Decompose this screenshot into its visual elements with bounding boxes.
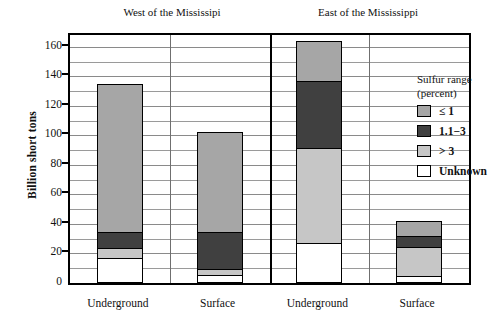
y-tick-label: 120 (22, 98, 62, 110)
bar-0 (97, 84, 143, 283)
y-tick-label: 0 (22, 275, 62, 287)
bar-segment (98, 232, 142, 249)
bar-segment (98, 248, 142, 258)
y-tick-label: 40 (22, 216, 62, 228)
y-tick-label: 140 (22, 68, 62, 80)
y-tick-label: 60 (22, 186, 62, 198)
category-separator (170, 35, 171, 283)
bar-segment (297, 243, 341, 282)
y-tick-label: 20 (22, 245, 62, 257)
y-tick-label: 80 (22, 157, 62, 169)
region-divider (270, 35, 272, 283)
legend-title: Sulfur range (417, 73, 492, 86)
panel-title-east: East of the Mississippi (268, 6, 468, 18)
y-tick-label: 160 (22, 39, 62, 51)
legend-label: Unknown (439, 165, 487, 179)
bar-segment (397, 276, 441, 282)
bar-1 (197, 132, 243, 283)
legend-swatch (417, 105, 431, 117)
bar-2 (296, 41, 342, 283)
x-axis-label: Surface (367, 297, 467, 309)
x-axis-label: Underground (68, 297, 168, 309)
legend-item: Unknown (417, 164, 492, 179)
bar-segment (297, 148, 341, 243)
bar-segment (297, 42, 341, 81)
legend-swatch (417, 165, 431, 177)
legend-label: 1.1−3 (439, 125, 466, 139)
category-separator (369, 35, 370, 283)
legend-item: ≤ 1 (417, 104, 492, 119)
plot-inner (70, 35, 469, 283)
legend-swatch (417, 145, 431, 157)
legend-label: ≤ 1 (439, 105, 454, 119)
legend-item: 1.1−3 (417, 124, 492, 139)
plot-area: Sulfur range (percent) ≤ 11.1−3> 3Unknow… (68, 33, 471, 285)
legend-swatch (417, 125, 431, 137)
legend-label: > 3 (439, 145, 454, 159)
bar-segment (198, 269, 242, 276)
y-tick-label: 100 (22, 127, 62, 139)
bar-segment (198, 232, 242, 269)
bar-segment (397, 222, 441, 236)
legend-item: > 3 (417, 144, 492, 159)
bar-segment (198, 275, 242, 282)
bar-segment (98, 258, 142, 282)
bar-segment (397, 247, 441, 275)
bar-segment (198, 133, 242, 231)
legend-rows: ≤ 11.1−3> 3Unknown (415, 104, 492, 179)
x-axis-label: Surface (168, 297, 268, 309)
x-axis-label: Underground (268, 297, 368, 309)
bar-segment (297, 81, 341, 149)
legend: Sulfur range (percent) ≤ 11.1−3> 3Unknow… (415, 73, 492, 184)
legend-subtitle: (percent) (417, 87, 492, 100)
bar-3 (396, 221, 442, 283)
bar-segment (98, 85, 142, 232)
bar-segment (397, 236, 441, 248)
panel-title-west: West of the Mississipi (72, 6, 272, 18)
